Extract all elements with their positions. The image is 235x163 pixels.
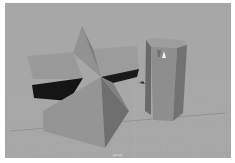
hexagonal-prism-object[interactable] [145, 38, 187, 121]
star-pyramid-object[interactable] [27, 26, 139, 148]
pivot-marker-icon [139, 81, 145, 84]
3d-viewport[interactable]: persp [5, 3, 231, 158]
camera-label: persp [113, 154, 122, 157]
scene-canvas[interactable] [5, 3, 231, 158]
